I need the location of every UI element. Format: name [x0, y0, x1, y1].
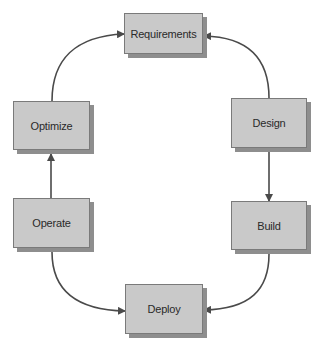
- node-operate: Operate: [13, 198, 90, 248]
- arrow-optimize-to-requirements: [52, 34, 124, 101]
- node-optimize-label: Optimize: [31, 120, 73, 132]
- arrow-design-to-requirements: [204, 36, 269, 98]
- node-design: Design: [231, 98, 307, 148]
- node-build: Build: [231, 201, 307, 250]
- node-build-label: Build: [257, 220, 280, 232]
- node-optimize: Optimize: [13, 101, 90, 150]
- node-deploy-label: Deploy: [147, 303, 180, 315]
- node-deploy: Deploy: [125, 284, 203, 334]
- arrow-build-to-deploy: [204, 254, 269, 310]
- node-design-label: Design: [252, 117, 285, 129]
- node-requirements: Requirements: [124, 13, 203, 54]
- arrow-operate-to-deploy: [52, 252, 125, 311]
- node-operate-label: Operate: [32, 217, 70, 229]
- node-requirements-label: Requirements: [130, 28, 196, 40]
